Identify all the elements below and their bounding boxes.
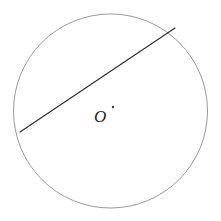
center-label-o: O — [94, 108, 106, 125]
geometry-figure-canvas: O — [0, 0, 221, 221]
center-dot — [112, 106, 114, 108]
circle-outline — [14, 14, 208, 208]
geometry-diagram-svg — [0, 0, 221, 221]
